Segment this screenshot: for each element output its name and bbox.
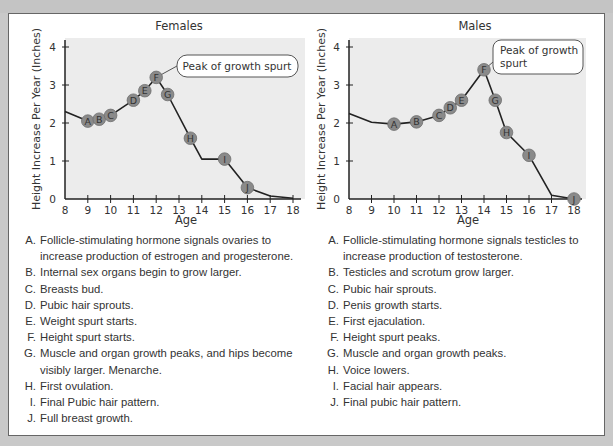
legend-text: Internal sex organs begin to grow larger… bbox=[40, 264, 307, 280]
legend-letter: J. bbox=[325, 394, 339, 410]
males-legend-item: D.Penis growth starts. bbox=[325, 297, 603, 313]
legend-letter: H. bbox=[22, 378, 36, 394]
legend-letter: B. bbox=[22, 264, 36, 280]
svg-text:I: I bbox=[528, 150, 531, 161]
males-chart-title: Males bbox=[458, 19, 491, 33]
females-x-tick-label: 14 bbox=[195, 204, 209, 216]
males-legend-item: J.Final pubic hair pattern. bbox=[325, 394, 603, 410]
females-legend-item: G.Muscle and organ growth peaks, and hip… bbox=[22, 345, 307, 377]
svg-text:C: C bbox=[107, 110, 114, 121]
males-x-tick-label: 18 bbox=[567, 204, 580, 216]
svg-text:F: F bbox=[153, 72, 158, 83]
legend-text: Follicle-stimulating hormone signals tes… bbox=[343, 232, 603, 264]
females-y-tick-label: 1 bbox=[49, 155, 56, 167]
legend-text: Weight spurt starts. bbox=[40, 313, 307, 329]
males-marker-c: C bbox=[433, 109, 446, 122]
legend-letter: G. bbox=[22, 345, 36, 377]
svg-text:H: H bbox=[503, 127, 510, 138]
legend-letter: F. bbox=[325, 329, 339, 345]
legend-text: Final pubic hair pattern. bbox=[343, 394, 603, 410]
females-y-tick-label: 4 bbox=[49, 41, 56, 53]
females-x-tick-label: 8 bbox=[62, 204, 69, 216]
svg-text:E: E bbox=[458, 95, 464, 106]
legend-text: Follicle-stimulating hormone signals ova… bbox=[40, 232, 307, 264]
females-legend-item: I.Final Pubic hair pattern. bbox=[22, 394, 307, 410]
females-x-tick-label: 9 bbox=[84, 204, 91, 216]
males-legend-item: A.Follicle-stimulating hormone signals t… bbox=[325, 232, 603, 264]
females-legend: A.Follicle-stimulating hormone signals o… bbox=[22, 232, 307, 426]
legend-letter: D. bbox=[22, 297, 36, 313]
legend-text: Muscle and organ growth peaks, and hips … bbox=[40, 345, 307, 377]
males-x-tick-label: 16 bbox=[522, 204, 536, 216]
males-legend: A.Follicle-stimulating hormone signals t… bbox=[325, 232, 603, 410]
svg-text:F: F bbox=[481, 64, 486, 75]
males-y-tick-label: 3 bbox=[333, 79, 340, 91]
legend-letter: C. bbox=[22, 281, 36, 297]
males-chart: Males 8910111213141516171801234 ABCDEFGH… bbox=[315, 19, 586, 227]
legend-text: First ovulation. bbox=[40, 378, 307, 394]
females-legend-item: D.Pubic hair sprouts. bbox=[22, 297, 307, 313]
males-x-tick-label: 9 bbox=[368, 204, 375, 216]
svg-text:J: J bbox=[245, 182, 249, 193]
females-marker-b: B bbox=[93, 113, 106, 126]
males-x-tick-label: 17 bbox=[545, 204, 558, 216]
males-marker-a: A bbox=[388, 118, 401, 131]
females-marker-a: A bbox=[82, 115, 95, 128]
females-marker-j: J bbox=[241, 181, 254, 194]
legend-text: Breasts bud. bbox=[40, 281, 307, 297]
svg-text:G: G bbox=[492, 95, 499, 106]
females-x-tick-label: 18 bbox=[286, 204, 299, 216]
males-marker-e: E bbox=[455, 94, 468, 107]
males-y-tick-label: 0 bbox=[333, 193, 340, 205]
females-legend-item: J.Full breast growth. bbox=[22, 410, 307, 426]
females-legend-item: C.Breasts bud. bbox=[22, 281, 307, 297]
legend-text: Height spurt peaks. bbox=[343, 329, 603, 345]
males-x-tick-label: 15 bbox=[500, 204, 513, 216]
males-callout-text-line2: spurt bbox=[500, 57, 527, 69]
males-callout-text-line1: Peak of growth bbox=[500, 44, 578, 56]
females-legend-item: A.Follicle-stimulating hormone signals o… bbox=[22, 232, 307, 264]
legend-letter: I. bbox=[22, 394, 36, 410]
females-x-tick-label: 16 bbox=[241, 204, 255, 216]
females-marker-h: H bbox=[184, 132, 197, 145]
legend-text: Full breast growth. bbox=[40, 410, 307, 426]
females-y-axis-label: Height Increase Per Year (Inches) bbox=[30, 28, 43, 210]
females-x-tick-label: 12 bbox=[150, 204, 163, 216]
males-marker-f: F bbox=[478, 64, 491, 77]
females-marker-e: E bbox=[139, 84, 152, 97]
legend-text: Final Pubic hair pattern. bbox=[40, 394, 307, 410]
males-x-tick-label: 14 bbox=[477, 204, 491, 216]
males-legend-item: I.Facial hair appears. bbox=[325, 378, 603, 394]
females-x-tick-label: 10 bbox=[104, 204, 117, 216]
males-x-tick-label: 11 bbox=[410, 204, 423, 216]
males-marker-i: I bbox=[523, 149, 536, 162]
males-x-tick-label: 10 bbox=[387, 204, 400, 216]
males-legend-item: E.First ejaculation. bbox=[325, 313, 603, 329]
females-marker-d: D bbox=[127, 94, 140, 107]
legend-letter: A. bbox=[325, 232, 339, 264]
legend-letter: H. bbox=[325, 362, 339, 378]
females-y-tick-label: 2 bbox=[49, 117, 56, 129]
males-y-tick-label: 1 bbox=[333, 155, 340, 167]
females-callout-text: Peak of growth spurt bbox=[183, 60, 292, 72]
males-legend-item: F.Height spurt peaks. bbox=[325, 329, 603, 345]
legend-text: Pubic hair sprouts. bbox=[343, 281, 603, 297]
legend-letter: C. bbox=[325, 281, 339, 297]
males-y-tick-label: 4 bbox=[333, 41, 340, 53]
svg-text:E: E bbox=[142, 85, 148, 96]
females-y-tick-label: 0 bbox=[49, 193, 56, 205]
males-marker-g: G bbox=[489, 94, 502, 107]
males-x-tick-label: 12 bbox=[432, 204, 445, 216]
svg-text:B: B bbox=[96, 114, 103, 125]
svg-text:B: B bbox=[413, 116, 420, 127]
females-chart-title: Females bbox=[155, 19, 203, 33]
females-chart: Females 8910111213141516171801234 ABCDEF… bbox=[30, 19, 305, 227]
males-legend-item: G.Muscle and organ growth peaks. bbox=[325, 345, 603, 361]
legend-letter: I. bbox=[325, 378, 339, 394]
svg-text:H: H bbox=[187, 133, 194, 144]
males-x-axis-label: Age bbox=[457, 213, 479, 227]
svg-text:A: A bbox=[85, 116, 92, 127]
legend-text: Testicles and scrotum grow larger. bbox=[343, 264, 603, 280]
females-marker-i: I bbox=[218, 153, 231, 166]
females-x-tick-label: 17 bbox=[264, 204, 277, 216]
